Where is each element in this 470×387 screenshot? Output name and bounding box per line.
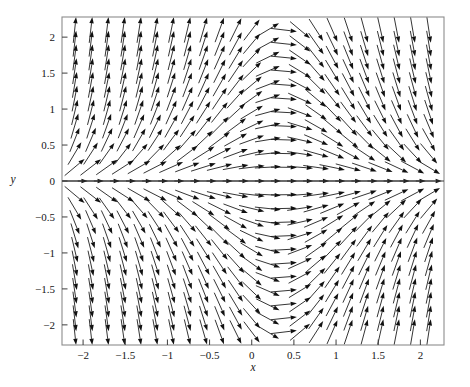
y-tick-label: −0.5 (35, 211, 55, 223)
x-axis-label: x (249, 361, 256, 373)
y-tick-label: −1 (43, 247, 55, 259)
y-tick-label: 0.5 (41, 139, 55, 151)
x-tick-label: −1.5 (115, 349, 135, 361)
y-tick-label: 1 (50, 103, 56, 115)
y-tick-label: 0 (50, 175, 56, 187)
y-tick-label: 1.5 (41, 67, 55, 79)
y-tick-label: −2 (43, 319, 55, 331)
y-tick-label: −1.5 (35, 283, 55, 295)
x-tick-label: −2 (77, 349, 89, 361)
direction-field-figure: −2−1.5−1−0.500.511.5221.510.50−0.5−1−1.5… (0, 0, 470, 387)
x-tick-label: −0.5 (200, 349, 220, 361)
x-tick-label: 1 (333, 349, 339, 361)
y-tick-label: 2 (50, 31, 56, 43)
x-tick-label: 1.5 (371, 349, 385, 361)
x-tick-label: 0.5 (287, 349, 301, 361)
y-axis-label: y (9, 173, 16, 186)
direction-field-plot: −2−1.5−1−0.500.511.5221.510.50−0.5−1−1.5… (0, 0, 470, 387)
x-tick-label: 0 (249, 349, 255, 361)
x-tick-label: −1 (162, 349, 174, 361)
x-tick-label: 2 (418, 349, 424, 361)
